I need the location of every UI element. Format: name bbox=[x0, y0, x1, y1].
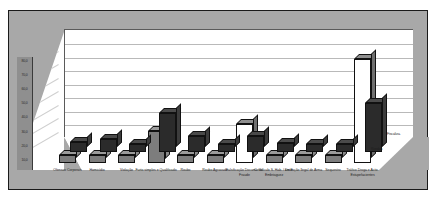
bar-column bbox=[129, 144, 146, 152]
chart-frame: 80,070,060,050,040,030,020,010,0 Ofensas… bbox=[8, 10, 428, 190]
bar-face bbox=[129, 144, 146, 152]
y-axis-tick: 10,0 bbox=[17, 156, 32, 165]
bar-face bbox=[207, 155, 224, 163]
bar-column bbox=[218, 144, 235, 152]
bar-face bbox=[188, 136, 205, 152]
y-axis-tick: 50,0 bbox=[17, 99, 32, 108]
y-axis-tick: 30,0 bbox=[17, 128, 32, 137]
depth-label-rondas: Rondas bbox=[371, 147, 382, 151]
bar-column bbox=[306, 144, 323, 152]
y-axis-tick: 20,0 bbox=[17, 142, 32, 151]
bar-column bbox=[59, 155, 76, 163]
bar-face bbox=[295, 155, 312, 163]
bar-face bbox=[177, 155, 194, 163]
bar-column bbox=[365, 103, 382, 152]
bar-face bbox=[118, 155, 135, 163]
bar-column bbox=[277, 143, 294, 152]
bar-face bbox=[70, 142, 87, 152]
bar-column bbox=[118, 155, 135, 163]
bar-face bbox=[247, 136, 264, 152]
y-axis-tick: 80,0 bbox=[17, 57, 32, 66]
bar-column bbox=[207, 155, 224, 163]
bar-column bbox=[70, 142, 87, 152]
bar-side bbox=[176, 103, 181, 147]
bar-column bbox=[159, 113, 176, 152]
y-axis-tick: 70,0 bbox=[17, 71, 32, 80]
bar-column bbox=[247, 136, 264, 152]
bar-face bbox=[218, 144, 235, 152]
bar-face bbox=[266, 155, 283, 163]
y-axis-tick: 40,0 bbox=[17, 113, 32, 122]
bar-face bbox=[89, 155, 106, 163]
bar-face bbox=[100, 139, 117, 152]
bar-column bbox=[295, 155, 312, 163]
bar-face bbox=[159, 113, 176, 152]
bar-column bbox=[266, 155, 283, 163]
bar-face bbox=[336, 144, 353, 152]
bar-face bbox=[59, 155, 76, 163]
y-axis-tick: 60,0 bbox=[17, 85, 32, 94]
bar-side bbox=[382, 93, 387, 147]
bar-column bbox=[89, 155, 106, 163]
depth-label-fiscaliza: Fiscaliza. bbox=[387, 132, 401, 136]
bar-face bbox=[277, 143, 294, 152]
y-axis: 80,070,060,050,040,030,020,010,0 bbox=[17, 57, 33, 170]
bar-face bbox=[325, 155, 342, 163]
bar-column bbox=[325, 155, 342, 163]
bar-column bbox=[336, 144, 353, 152]
bar-column bbox=[177, 155, 194, 163]
bar-face bbox=[306, 144, 323, 152]
x-axis-label: Tráfico Droga e Activ. Estupefacientes bbox=[340, 168, 386, 177]
bar-face bbox=[365, 103, 382, 152]
bar-column bbox=[100, 139, 117, 152]
bar-column bbox=[188, 136, 205, 152]
gridline bbox=[65, 44, 413, 45]
